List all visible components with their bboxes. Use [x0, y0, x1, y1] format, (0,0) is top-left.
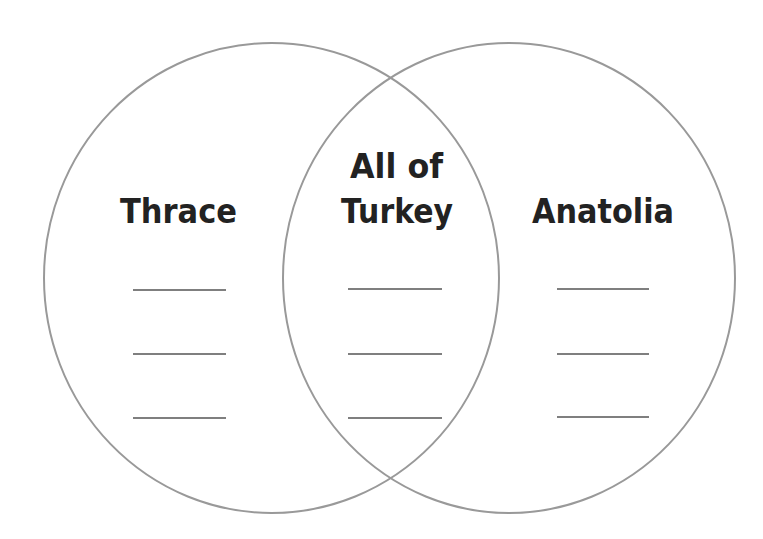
center-label-line1: All of [350, 146, 444, 186]
right-label: Anatolia [532, 191, 674, 231]
left-label: Thrace [120, 191, 237, 231]
right-circle-anatolia [283, 43, 735, 513]
center-label-line2: Turkey [341, 191, 453, 231]
left-circle-thrace [44, 43, 499, 513]
venn-diagram: Thrace All of Turkey Anatolia [0, 0, 763, 539]
